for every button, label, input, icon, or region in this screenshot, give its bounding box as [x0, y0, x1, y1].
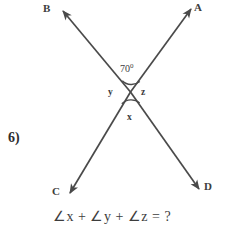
- vertex-label-C: C: [52, 186, 60, 197]
- vertex-label-B: B: [43, 3, 50, 14]
- line-segment-CA: [131, 9, 192, 92]
- angle-label-x: x: [127, 113, 132, 123]
- degree-symbol: 0: [130, 62, 134, 70]
- geometry-figure: B A C D 700 y z x 6) ∠x + ∠y + ∠z = ?: [0, 0, 226, 233]
- angle-label-z: z: [141, 88, 145, 98]
- line-segment-AC: [70, 92, 131, 193]
- problem-number: 6): [8, 131, 20, 145]
- angle-arc-top: [122, 81, 140, 85]
- intersecting-lines-diagram: [0, 0, 226, 233]
- angle-label-y: y: [108, 88, 113, 98]
- question-equation: ∠x + ∠y + ∠z = ?: [53, 210, 171, 224]
- angle-value-70: 70: [120, 63, 130, 74]
- line-segment-DB: [131, 92, 200, 189]
- angle-label-70-degrees: 700: [120, 64, 134, 74]
- vertex-label-D: D: [204, 181, 212, 192]
- vertex-label-A: A: [194, 2, 202, 13]
- line-segment-BD: [63, 11, 131, 92]
